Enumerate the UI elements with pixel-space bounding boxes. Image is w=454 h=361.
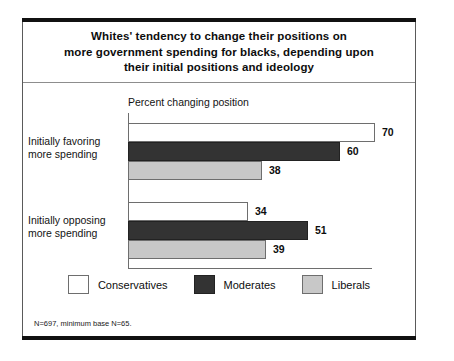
bar-row: 34 [128, 202, 417, 221]
bar-group-opposing: Initially opposing more spending 34 51 3… [128, 202, 417, 259]
title-band: Whites' tendency to change their positio… [23, 23, 415, 83]
category-label-opposing: Initially opposing more spending [28, 214, 120, 240]
bar-value-opposing-conservatives: 34 [255, 202, 267, 221]
bar-row: 38 [128, 161, 417, 180]
bar-favoring-liberals[interactable] [128, 161, 262, 180]
bar-value-opposing-moderates: 51 [315, 221, 327, 240]
category-label-favoring: Initially favoring more spending [28, 135, 120, 161]
page-title: Whites' tendency to change their positio… [50, 29, 388, 76]
footnote: N=697, minimum base N=65. [34, 319, 132, 328]
category-label-opposing-line-1: Initially opposing [28, 214, 120, 227]
title-line-3: their initial positions and ideology [64, 60, 374, 76]
bar-favoring-moderates[interactable] [128, 142, 340, 161]
bar-opposing-conservatives[interactable] [128, 202, 248, 221]
bar-favoring-conservatives[interactable] [128, 123, 375, 142]
legend-item-moderates[interactable]: Moderates [194, 275, 276, 294]
legend-label-moderates: Moderates [224, 279, 276, 291]
plot-area: Initially favoring more spending 70 60 3… [128, 113, 417, 269]
axis-caption: Percent changing position [128, 96, 249, 108]
plot-baseline [128, 268, 372, 269]
legend-swatch-conservatives [68, 275, 89, 294]
bar-value-favoring-moderates: 60 [347, 142, 359, 161]
title-line-1: Whites' tendency to change their positio… [64, 29, 374, 45]
title-line-2: more government spending for blacks, dep… [64, 45, 374, 61]
bar-opposing-moderates[interactable] [128, 221, 308, 240]
category-label-opposing-line-2: more spending [28, 227, 120, 240]
figure-panel: Whites' tendency to change their positio… [22, 18, 416, 340]
category-label-favoring-line-1: Initially favoring [28, 135, 120, 148]
bar-value-favoring-conservatives: 70 [382, 123, 394, 142]
category-label-favoring-line-2: more spending [28, 148, 120, 161]
bar-row: 51 [128, 221, 417, 240]
legend-swatch-moderates [194, 275, 215, 294]
bar-row: 39 [128, 240, 417, 259]
bar-opposing-liberals[interactable] [128, 240, 266, 259]
bar-row: 60 [128, 142, 417, 161]
legend-label-conservatives: Conservatives [98, 279, 168, 291]
legend-item-conservatives[interactable]: Conservatives [68, 275, 168, 294]
legend-swatch-liberals [302, 275, 323, 294]
bar-value-opposing-liberals: 39 [273, 240, 285, 259]
bar-value-favoring-liberals: 38 [269, 161, 281, 180]
legend-label-liberals: Liberals [332, 279, 371, 291]
legend: Conservatives Moderates Liberals [23, 275, 415, 294]
legend-item-liberals[interactable]: Liberals [302, 275, 371, 294]
bar-group-favoring: Initially favoring more spending 70 60 3… [128, 123, 417, 180]
bar-row: 70 [128, 123, 417, 142]
